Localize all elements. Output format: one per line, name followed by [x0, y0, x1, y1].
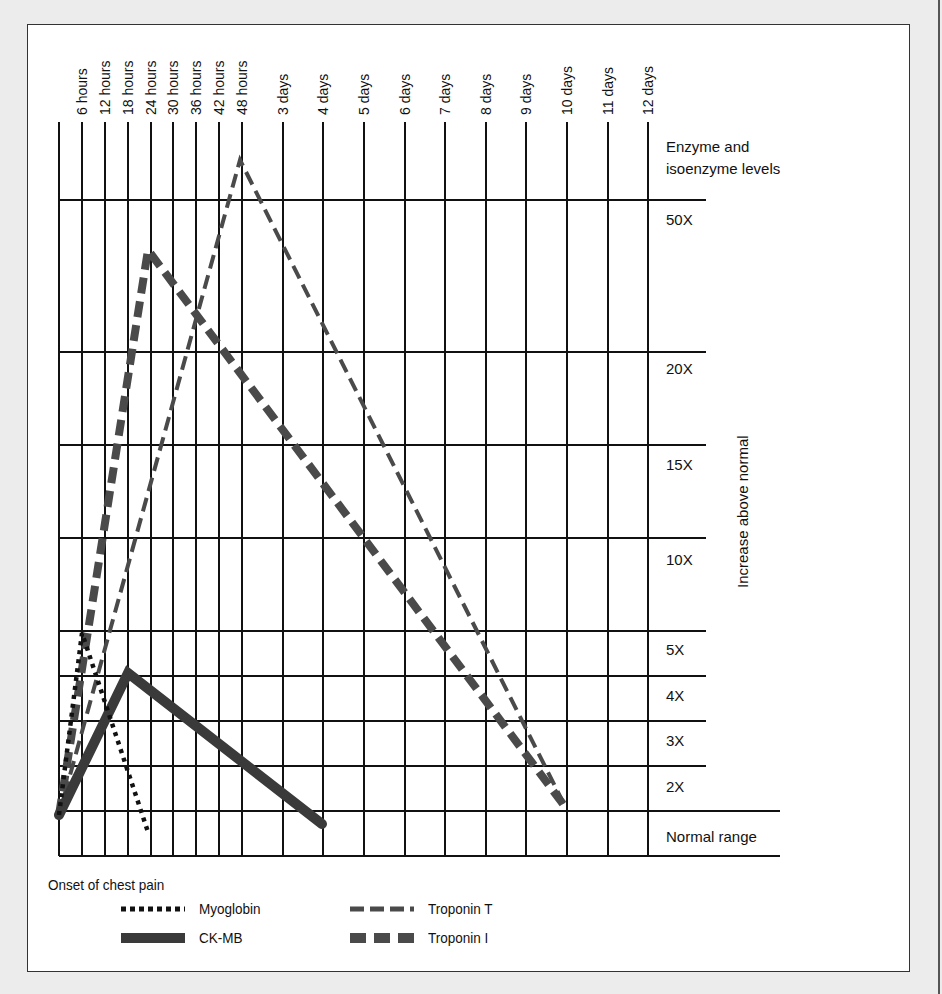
legend-item-troponin-i: Troponin I [350, 929, 495, 946]
thick-dashed-line-swatch-icon [350, 933, 414, 943]
x-tick-42h: 42 hours [211, 61, 227, 115]
x-tick-10d: 10 days [559, 66, 575, 115]
y-tick-4x: 4X [666, 687, 684, 704]
x-tick-7d: 7 days [437, 74, 453, 115]
y-tick-3x: 3X [666, 732, 684, 749]
x-tick-12h: 12 hours [97, 61, 113, 115]
y-tick-10x: 10X [666, 551, 693, 568]
x-tick-5d: 5 days [356, 74, 372, 115]
y-tick-50x: 50X [666, 211, 693, 228]
y-tick-normal-range: Normal range [666, 828, 757, 845]
horizontal-gridlines [59, 200, 780, 856]
enzyme-chart: 6 hours 12 hours 18 hours 24 hours 30 ho… [0, 0, 942, 994]
x-tick-30h: 30 hours [165, 61, 181, 115]
series-troponin-i [59, 250, 566, 815]
dotted-line-swatch-icon [121, 904, 185, 914]
legend-label-ck-mb: CK-MB [199, 929, 243, 946]
x-tick-9d: 9 days [518, 74, 534, 115]
legend-item-myoglobin: Myoglobin [121, 900, 267, 917]
y-tick-20x: 20X [666, 360, 693, 377]
series-troponin-t [59, 160, 566, 815]
y-tick-15x: 15X [666, 456, 693, 473]
y-header-line1: Enzyme and [666, 138, 749, 155]
legend-label-myoglobin: Myoglobin [199, 900, 261, 917]
x-tick-36h: 36 hours [188, 61, 204, 115]
legend-item-ck-mb: CK-MB [121, 929, 247, 946]
dashed-line-swatch-icon [350, 904, 414, 914]
x-tick-6h: 6 hours [74, 68, 90, 115]
solid-line-swatch-icon [121, 933, 185, 943]
x-tick-6d: 6 days [397, 74, 413, 115]
onset-label: Onset of chest pain [48, 876, 164, 893]
legend-item-troponin-t: Troponin T [350, 900, 500, 917]
y-tick-5x: 5X [666, 641, 684, 658]
legend-label-troponin-i: Troponin I [428, 929, 488, 946]
legend-label-troponin-t: Troponin T [428, 900, 493, 917]
x-tick-48h: 48 hours [234, 61, 250, 115]
x-tick-12d: 12 days [640, 66, 656, 115]
legend: Onset of chest pain Myoglobin CK-MB Trop… [48, 876, 568, 966]
x-tick-4d: 4 days [315, 74, 331, 115]
y-tick-2x: 2X [666, 778, 684, 795]
x-tick-24h: 24 hours [143, 61, 159, 115]
x-tick-8d: 8 days [478, 74, 494, 115]
x-tick-18h: 18 hours [120, 61, 136, 115]
y-header-line2: isoenzyme levels [666, 160, 780, 177]
y-axis-title: Increase above normal [734, 435, 751, 588]
x-tick-3d: 3 days [275, 74, 291, 115]
y-axis-labels: Enzyme and isoenzyme levels 50X 20X 15X … [666, 138, 780, 845]
x-tick-labels: 6 hours 12 hours 18 hours 24 hours 30 ho… [74, 61, 656, 115]
x-tick-11d: 11 days [600, 67, 616, 115]
